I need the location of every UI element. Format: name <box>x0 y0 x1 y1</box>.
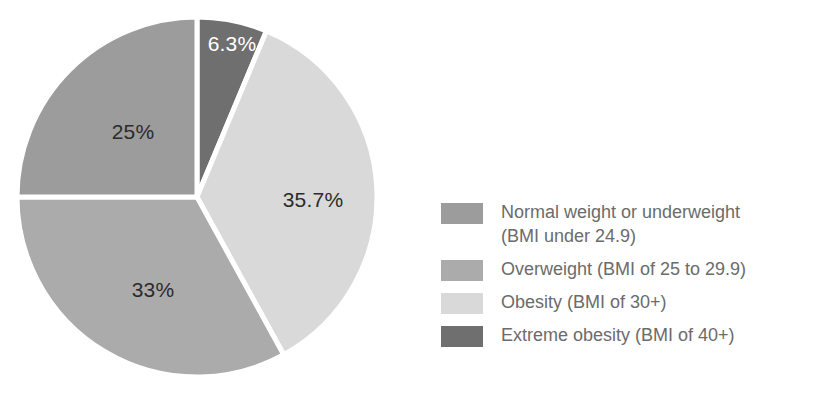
legend-color-swatch <box>441 293 483 314</box>
legend-item[interactable]: Normal weight or underweight (BMI under … <box>441 200 817 248</box>
legend-item[interactable]: Obesity (BMI of 30+) <box>441 290 817 314</box>
legend-item[interactable]: Overweight (BMI of 25 to 29.9) <box>441 257 817 281</box>
legend-color-swatch <box>441 203 483 224</box>
pie-slice-value-label: 6.3% <box>208 32 257 55</box>
legend-item-label: Normal weight or underweight (BMI under … <box>501 200 740 248</box>
pie-chart-figure: 6.3%35.7%33%25% <box>0 0 420 402</box>
legend-color-swatch <box>441 326 483 347</box>
legend-item-label: Overweight (BMI of 25 to 29.9) <box>501 257 746 281</box>
pie-slice-value-label: 33% <box>132 278 175 301</box>
pie-chart-svg: 6.3%35.7%33%25% <box>0 0 420 402</box>
pie-chart-page: 6.3%35.7%33%25% Normal weight or underwe… <box>0 0 817 402</box>
pie-slice-value-label: 35.7% <box>283 188 344 211</box>
legend-color-swatch <box>441 260 483 281</box>
legend-item[interactable]: Extreme obesity (BMI of 40+) <box>441 323 817 347</box>
pie-slice-value-label: 25% <box>112 120 155 143</box>
pie-slice[interactable] <box>17 17 197 197</box>
legend-item-label: Obesity (BMI of 30+) <box>501 290 667 314</box>
chart-legend: Normal weight or underweight (BMI under … <box>441 200 817 356</box>
legend-item-label: Extreme obesity (BMI of 40+) <box>501 323 735 347</box>
